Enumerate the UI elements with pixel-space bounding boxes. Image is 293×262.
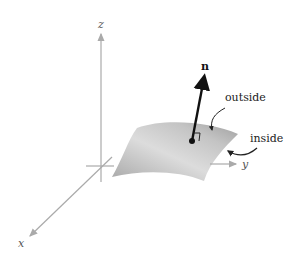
x-axis-label: x [18, 237, 25, 250]
inside-pointer [228, 148, 257, 155]
normal-vector-label: n [201, 60, 209, 73]
surface-orientation-diagram: z x y n outside inside [0, 0, 293, 262]
y-axis-label: y [241, 158, 249, 171]
z-axis-label: z [97, 18, 104, 31]
normal-base-point [189, 138, 195, 144]
inside-label: inside [250, 132, 283, 145]
x-axis [30, 157, 112, 236]
outside-label: outside [225, 91, 266, 104]
surface [112, 122, 238, 181]
